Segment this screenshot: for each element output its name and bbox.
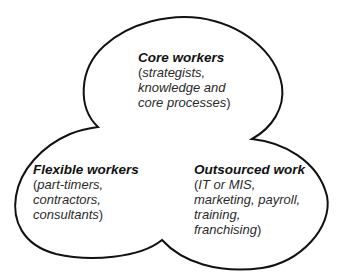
leaf-core-workers: Core workers (strategists, knowledge and…: [138, 50, 231, 110]
leaf-detail-line: (part-timers,: [33, 177, 139, 192]
leaf-outsourced-work: Outsourced work (IT or MIS, marketing, p…: [194, 162, 305, 237]
leaf-title: Core workers: [138, 50, 231, 65]
leaf-title: Outsourced work: [194, 162, 305, 177]
leaf-detail-line: consultants): [33, 207, 139, 222]
leaf-title: Flexible workers: [33, 162, 139, 177]
shamrock-outline: [0, 0, 344, 280]
leaf-detail-line: (IT or MIS,: [194, 177, 305, 192]
leaf-detail-line: franchising): [194, 222, 305, 237]
leaf-detail-line: contractors,: [33, 192, 139, 207]
leaf-flexible-workers: Flexible workers (part-timers, contracto…: [33, 162, 139, 222]
leaf-detail-line: core processes): [138, 95, 231, 110]
leaf-detail-line: (strategists,: [138, 65, 231, 80]
leaf-detail-line: training,: [194, 207, 305, 222]
leaf-detail-line: knowledge and: [138, 80, 231, 95]
leaf-detail-line: marketing, payroll,: [194, 192, 305, 207]
